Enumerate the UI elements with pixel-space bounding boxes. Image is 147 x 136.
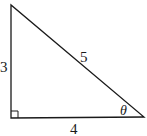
hypotenuse-label: 5: [80, 49, 88, 65]
right-triangle-diagram: 3 5 4 θ: [0, 0, 147, 136]
horizontal-leg-label: 4: [70, 121, 78, 136]
vertical-leg-label: 3: [0, 59, 8, 75]
right-angle-marker: [11, 111, 18, 118]
triangle: [11, 5, 144, 118]
angle-theta-label: θ: [120, 103, 127, 118]
